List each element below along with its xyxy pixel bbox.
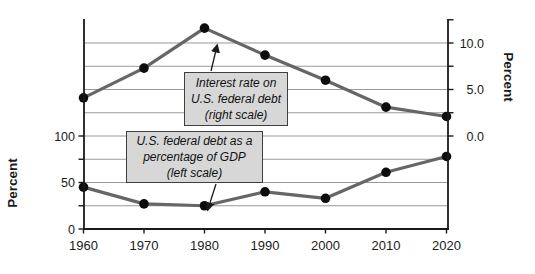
callout-debt-gdp: U.S. federal debt as a percentage of GDP… — [126, 131, 263, 183]
callout-debt-line-3: (left scale) — [167, 165, 222, 181]
right-axis-tick-label: 10.0 — [460, 37, 484, 51]
data-point-marker — [321, 75, 331, 85]
data-point-marker — [260, 50, 270, 60]
left-axis-title: Percent — [5, 158, 20, 208]
right-axis-tick-label: 0.0 — [467, 130, 484, 144]
callout-interest-line-1: Interest rate on — [196, 75, 277, 91]
data-point-marker — [442, 152, 452, 162]
x-axis-tick-label: 1980 — [190, 238, 219, 253]
data-point-marker — [200, 201, 210, 211]
x-axis-tick-label: 1960 — [69, 238, 98, 253]
x-axis-tick-label: 2010 — [372, 238, 401, 253]
right-axis-tick-label: 5.0 — [467, 83, 484, 97]
x-axis-tick-label: 1970 — [130, 238, 159, 253]
callout-interest-rate: Interest rate on U.S. federal debt (righ… — [184, 72, 288, 126]
left-axis-tick-label: 50 — [61, 176, 75, 190]
chart-figure: 0501000.05.010.0196019701980199020002010… — [0, 0, 535, 274]
data-point-marker — [381, 102, 391, 112]
left-axis-tick-label: 0 — [68, 223, 75, 237]
x-axis-tick-label: 2000 — [311, 238, 340, 253]
callout-debt-line-2: percentage of GDP — [143, 149, 246, 165]
callout-interest-line-2: U.S. federal debt — [191, 91, 281, 107]
data-point-marker — [381, 167, 391, 177]
x-axis-tick-label: 1990 — [251, 238, 280, 253]
x-axis-tick-label: 2020 — [432, 238, 461, 253]
callout-arrow — [211, 46, 217, 71]
callout-debt-line-1: U.S. federal debt as a — [136, 133, 252, 149]
left-axis-tick-label: 100 — [54, 130, 75, 144]
dual-axis-line-chart: 0501000.05.010.0196019701980199020002010… — [0, 0, 535, 274]
callout-interest-line-3: (right scale) — [205, 107, 268, 123]
data-point-marker — [139, 63, 149, 73]
data-point-marker — [321, 194, 331, 204]
data-point-marker — [200, 23, 210, 33]
data-point-marker — [139, 199, 149, 209]
right-axis-title: Percent — [501, 52, 516, 102]
data-point-marker — [260, 187, 270, 197]
